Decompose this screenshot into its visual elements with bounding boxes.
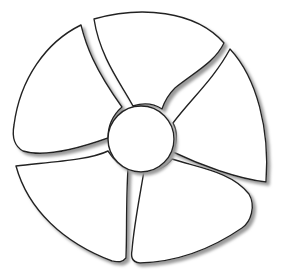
- fan-icon: [0, 0, 281, 278]
- blade-bottom-left: [16, 151, 128, 262]
- fan-illustration: five-blade fan outline: [0, 0, 281, 278]
- fan-hub: [108, 106, 174, 172]
